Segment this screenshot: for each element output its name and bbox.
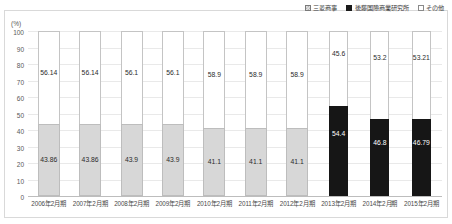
checker-swatch-icon [305, 5, 311, 11]
bar-value-label-bottom: 46.8 [373, 140, 386, 147]
bar-value-label-bottom: 43.86 [82, 156, 99, 163]
bar-value-label-top: 56.14 [82, 70, 99, 77]
legend-item-other: その他 [418, 3, 445, 12]
bar-value-label-bottom: 43.9 [125, 156, 138, 163]
white-swatch-icon [418, 5, 424, 11]
bar-value-label-top: 45.6 [332, 51, 345, 58]
gridline: 0 [28, 196, 442, 197]
bar-slot: 56.143.9 [111, 31, 152, 196]
legend-label: 後藤国際商業研究所 [355, 3, 409, 12]
chart-legend: 三菱商事 後藤国際商業研究所 その他 [305, 3, 445, 12]
bar-value-label-top: 58.9 [208, 72, 221, 79]
stacked-bar[interactable]: 53.2146.79 [412, 31, 431, 196]
bar-value-label-top: 56.1 [125, 70, 138, 77]
plot-area: 1009080706050403020100 56.1443.8656.1443… [28, 31, 442, 196]
y-axis-tick-label: 70 [17, 78, 24, 85]
bar-segment-other[interactable]: 53.21 [412, 31, 431, 119]
bar-segment-other[interactable]: 58.9 [286, 31, 308, 128]
y-axis-tick-label: 80 [17, 62, 24, 69]
bar-segment-mitsubishi-shoji[interactable]: 43.86 [38, 124, 60, 196]
bar-value-label-bottom: 41.1 [291, 159, 304, 166]
x-axis-tick-label: 2013年2月期 [318, 199, 359, 208]
bar-value-label-bottom: 43.86 [40, 156, 57, 163]
x-axis-tick-label: 2015年2月期 [401, 199, 442, 208]
bar-value-label-top: 53.2 [373, 55, 386, 62]
x-axis-tick-label: 2010年2月期 [194, 199, 235, 208]
y-axis-tick-label: 10 [17, 177, 24, 184]
legend-label: その他 [426, 3, 444, 12]
x-axis-tick-label: 2009年2月期 [152, 199, 193, 208]
bar-slot: 45.654.4 [318, 31, 359, 196]
bar-segment-mitsubishi-shoji[interactable]: 43.86 [79, 124, 101, 196]
bar-slot: 56.1443.86 [69, 31, 110, 196]
stacked-bar[interactable]: 45.654.4 [329, 31, 348, 196]
bar-value-label-top: 58.9 [249, 72, 262, 79]
bar-segment-goto-kokusai[interactable]: 46.79 [412, 119, 431, 196]
stacked-bar[interactable]: 58.941.1 [203, 31, 225, 196]
stacked-bar[interactable]: 56.143.9 [162, 31, 184, 196]
bar-slot: 56.1443.86 [28, 31, 69, 196]
bar-segment-other[interactable]: 58.9 [203, 31, 225, 128]
bar-slot: 58.941.1 [194, 31, 235, 196]
bar-series: 56.1443.8656.1443.8656.143.956.143.958.9… [28, 31, 442, 196]
bar-slot: 56.143.9 [152, 31, 193, 196]
y-axis-tick-label: 20 [17, 161, 24, 168]
legend-item-goto-kokusai: 後藤国際商業研究所 [346, 3, 409, 12]
bar-slot: 53.246.8 [359, 31, 400, 196]
bar-value-label-bottom: 54.4 [332, 131, 345, 138]
y-axis-tick-label: 0 [20, 194, 24, 201]
bar-segment-mitsubishi-shoji[interactable]: 41.1 [286, 128, 308, 196]
bar-segment-other[interactable]: 53.2 [370, 31, 389, 119]
x-axis-tick-label: 2011年2月期 [235, 199, 276, 208]
bar-value-label-bottom: 46.79 [413, 140, 430, 147]
bar-value-label-top: 53.21 [413, 55, 430, 62]
stacked-bar[interactable]: 53.246.8 [370, 31, 389, 196]
legend-item-mitsubishi-shoji: 三菱商事 [305, 3, 338, 12]
bar-value-label-bottom: 43.9 [166, 156, 179, 163]
chart-screenshot: 三菱商事 後藤国際商業研究所 その他 (%) 10090807060504030… [0, 0, 452, 224]
stacked-bar[interactable]: 56.1443.86 [38, 31, 60, 196]
bar-segment-goto-kokusai[interactable]: 46.8 [370, 119, 389, 196]
bar-slot: 53.2146.79 [401, 31, 442, 196]
x-axis-tick-label: 2006年2月期 [28, 199, 69, 208]
solid-swatch-icon [346, 5, 352, 11]
bar-slot: 58.941.1 [276, 31, 317, 196]
bar-segment-other[interactable]: 56.14 [38, 31, 60, 124]
x-axis-labels: 2006年2月期2007年2月期2008年2月期2009年2月期2010年2月期… [28, 199, 442, 208]
y-axis-tick-label: 90 [17, 45, 24, 52]
bar-value-label-bottom: 41.1 [249, 159, 262, 166]
y-axis-unit-label: (%) [11, 20, 21, 27]
x-axis-tick-label: 2007年2月期 [69, 199, 110, 208]
bar-value-label-top: 56.14 [40, 70, 57, 77]
stacked-bar[interactable]: 58.941.1 [245, 31, 267, 196]
bar-segment-mitsubishi-shoji[interactable]: 41.1 [203, 128, 225, 196]
bar-value-label-top: 58.9 [291, 72, 304, 79]
legend-label: 三菱商事 [313, 3, 337, 12]
y-axis-tick-label: 50 [17, 111, 24, 118]
bar-value-label-bottom: 41.1 [208, 159, 221, 166]
bar-segment-goto-kokusai[interactable]: 54.4 [329, 106, 348, 196]
bar-segment-mitsubishi-shoji[interactable]: 41.1 [245, 128, 267, 196]
stacked-bar[interactable]: 56.1443.86 [79, 31, 101, 196]
y-axis-tick-label: 100 [13, 29, 24, 36]
bar-segment-other[interactable]: 45.6 [329, 31, 348, 106]
stacked-bar[interactable]: 56.143.9 [121, 31, 143, 196]
y-axis-tick-label: 40 [17, 128, 24, 135]
bar-segment-mitsubishi-shoji[interactable]: 43.9 [121, 124, 143, 196]
bar-value-label-top: 56.1 [166, 70, 179, 77]
x-axis-tick-label: 2012年2月期 [276, 199, 317, 208]
bar-segment-mitsubishi-shoji[interactable]: 43.9 [162, 124, 184, 196]
bar-slot: 58.941.1 [235, 31, 276, 196]
y-axis-tick-label: 30 [17, 144, 24, 151]
x-axis-tick-label: 2008年2月期 [111, 199, 152, 208]
bar-segment-other[interactable]: 58.9 [245, 31, 267, 128]
bar-segment-other[interactable]: 56.1 [162, 31, 184, 124]
bar-segment-other[interactable]: 56.14 [79, 31, 101, 124]
x-axis-tick-label: 2014年2月期 [359, 199, 400, 208]
y-axis-tick-label: 60 [17, 95, 24, 102]
stacked-bar[interactable]: 58.941.1 [286, 31, 308, 196]
bar-segment-other[interactable]: 56.1 [121, 31, 143, 124]
